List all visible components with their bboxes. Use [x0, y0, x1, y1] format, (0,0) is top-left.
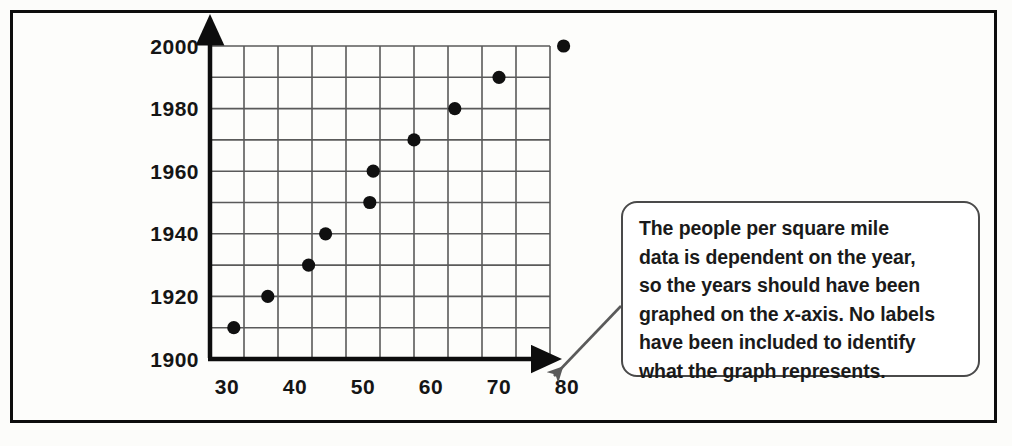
- scatter-plot-figure: 190019201940196019802000 304050607080: [13, 13, 613, 426]
- data-point: [492, 71, 505, 84]
- y-tick-label: 1960: [150, 160, 199, 183]
- y-tick-label: 1920: [150, 285, 199, 308]
- x-tick-label: 50: [351, 375, 375, 398]
- data-point: [302, 259, 315, 272]
- data-point: [363, 196, 376, 209]
- data-point: [261, 290, 274, 303]
- x-tick-label: 40: [283, 375, 307, 398]
- data-point: [557, 39, 570, 52]
- x-tick-label: 80: [555, 375, 579, 398]
- data-point: [407, 133, 420, 146]
- callout-box: The people per square miledata is depend…: [621, 201, 980, 377]
- y-tick-label: 1940: [150, 222, 199, 245]
- x-axis-tick-labels: 304050607080: [215, 375, 579, 398]
- figure-page: 190019201940196019802000 304050607080 Th…: [0, 0, 1012, 446]
- figure-frame: 190019201940196019802000 304050607080 Th…: [10, 10, 997, 423]
- y-tick-label: 1980: [150, 97, 199, 120]
- data-point: [367, 165, 380, 178]
- annotation-callout: The people per square miledata is depend…: [611, 191, 981, 388]
- scatter-plot-svg: 190019201940196019802000 304050607080: [13, 13, 613, 426]
- x-tick-label: 60: [419, 375, 443, 398]
- y-tick-label: 1900: [150, 348, 199, 371]
- data-point: [319, 227, 332, 240]
- x-tick-label: 70: [487, 375, 511, 398]
- data-point: [227, 321, 240, 334]
- callout-text: The people per square miledata is depend…: [639, 214, 964, 386]
- y-axis-tick-labels: 190019201940196019802000: [150, 35, 199, 371]
- chart-gridlines: [210, 46, 550, 359]
- data-point: [448, 102, 461, 115]
- y-tick-label: 2000: [150, 35, 199, 58]
- x-tick-label: 30: [215, 375, 239, 398]
